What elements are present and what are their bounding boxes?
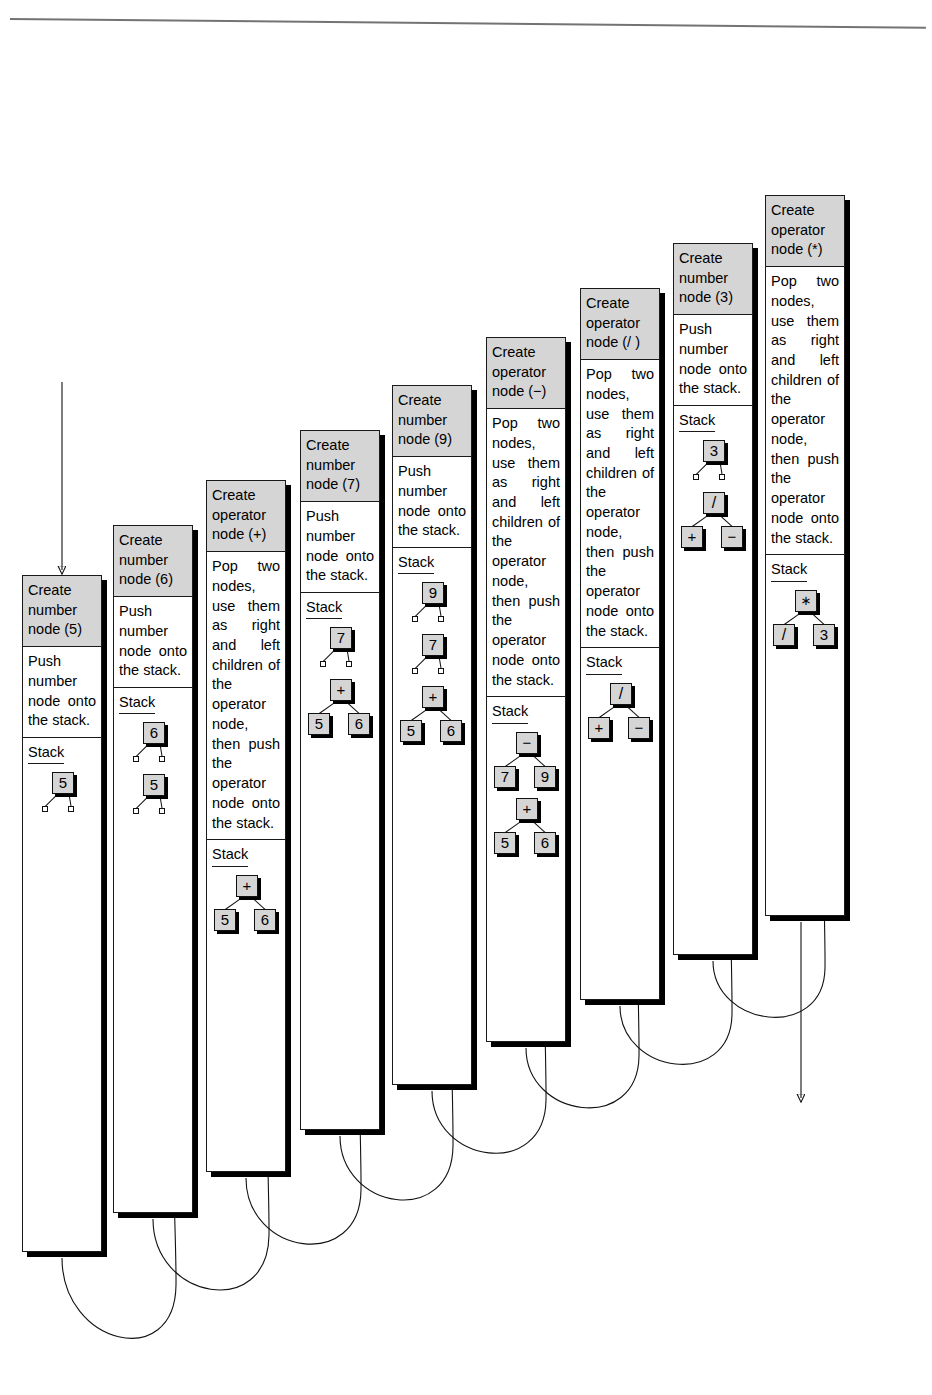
tree-node-left: 5 [494, 832, 516, 854]
stack-section: Stack756+ [301, 593, 379, 753]
stack-label: Stack [306, 599, 342, 619]
step-card-header: Create number node (3) [674, 244, 752, 315]
step-card-body: Pop two nodes, use them as right and lef… [581, 360, 659, 648]
tree-node-right: − [721, 526, 743, 548]
tree-node-root: + [422, 686, 444, 708]
stack-tree: /3∗ [771, 590, 841, 646]
stack-label: Stack [586, 654, 622, 674]
tree-null-child-right [159, 808, 165, 814]
stack-section: Stack79−56+ [487, 697, 565, 871]
stack-tree: 5 [119, 774, 189, 816]
tree-null-child-left [133, 756, 139, 762]
step-card[interactable]: Create number node (6)Push number node o… [113, 525, 193, 1213]
step-card[interactable]: Create operator node (/ )Pop two nodes, … [580, 288, 660, 1000]
stack-section: Stack9756+ [393, 548, 471, 760]
tree-node-root: + [330, 679, 352, 701]
stack-label: Stack [679, 412, 715, 432]
stack-section: Stack+−/ [581, 648, 659, 756]
tree-node-right: 6 [440, 720, 462, 742]
tree-node-root: 5 [143, 774, 165, 796]
step-card[interactable]: Create number node (9)Push number node o… [392, 385, 472, 1085]
tree-node-root: 5 [52, 772, 74, 794]
stack-tree: 79− [492, 732, 562, 788]
step-card-body: Push number node onto the stack. [674, 315, 752, 406]
stack-trees: 5 [28, 772, 97, 814]
tree-null-child-left [42, 806, 48, 812]
stack-trees: 56+ [212, 875, 281, 931]
figure-canvas: Create number node (5)Push number node o… [0, 0, 932, 1395]
step-card[interactable]: Create operator node (−)Pop two nodes, u… [486, 337, 566, 1042]
stack-trees: +−/ [586, 683, 655, 739]
stack-tree: 9 [398, 582, 468, 624]
step-card[interactable]: Create number node (5)Push number node o… [22, 575, 102, 1252]
stack-section: Stack5 [23, 738, 101, 832]
step-card[interactable]: Create number node (3)Push number node o… [673, 243, 753, 955]
tree-node-left: 5 [308, 713, 330, 735]
tree-node-root: 3 [703, 440, 725, 462]
step-card-header: Create operator node (/ ) [581, 289, 659, 360]
stack-tree: 6 [119, 722, 189, 764]
tree-node-right: 6 [254, 909, 276, 931]
tree-edge [159, 745, 162, 757]
stack-label: Stack [771, 561, 807, 581]
tree-edge [346, 650, 349, 662]
tree-node-root: 6 [143, 722, 165, 744]
stack-trees: 79−56+ [492, 732, 561, 854]
step-card[interactable]: Create operator node (*)Pop two nodes, u… [765, 195, 845, 916]
stack-label: Stack [119, 694, 155, 714]
tree-null-child-left [320, 661, 326, 667]
stack-tree: 56+ [398, 686, 468, 742]
tree-edge [438, 657, 441, 669]
step-card-body: Push number node onto the stack. [393, 457, 471, 548]
step-card-header: Create number node (9) [393, 386, 471, 457]
step-card-body: Pop two nodes, use them as right and lef… [766, 267, 844, 555]
tree-null-child-right [346, 661, 352, 667]
tree-node-left: 5 [400, 720, 422, 742]
stack-tree: 5 [28, 772, 98, 814]
tree-edge [159, 797, 162, 809]
tree-node-left: + [588, 717, 610, 739]
tree-null-child-right [719, 474, 725, 480]
tree-edge [68, 795, 71, 807]
stack-tree: 7 [306, 627, 376, 669]
tree-node-root: / [610, 683, 632, 705]
stack-trees: /3∗ [771, 590, 840, 646]
stack-trees: 3+−/ [679, 440, 748, 548]
stack-tree: 3 [679, 440, 749, 482]
stack-section: Stack3+−/ [674, 406, 752, 566]
tree-edge [438, 605, 441, 617]
step-card-header: Create number node (6) [114, 526, 192, 597]
tree-node-right: − [628, 717, 650, 739]
stack-label: Stack [398, 554, 434, 574]
step-card-header: Create number node (5) [23, 576, 101, 647]
step-card-body: Pop two nodes, use them as right and lef… [487, 409, 565, 697]
tree-node-root: + [236, 875, 258, 897]
step-card-body: Push number node onto the stack. [23, 647, 101, 738]
tree-node-left: / [773, 624, 795, 646]
tree-null-child-left [133, 808, 139, 814]
stack-tree: +−/ [586, 683, 656, 739]
step-card-header: Create operator node (*) [766, 196, 844, 267]
stack-label: Stack [212, 846, 248, 866]
step-card-header: Create number node (7) [301, 431, 379, 502]
tree-node-right: 9 [534, 766, 556, 788]
tree-node-right: 6 [348, 713, 370, 735]
stack-section: Stack/3∗ [766, 555, 844, 663]
stack-label: Stack [28, 744, 64, 764]
step-card-body: Push number node onto the stack. [301, 502, 379, 593]
tree-node-left: 7 [494, 766, 516, 788]
tree-node-right: 3 [813, 624, 835, 646]
tree-node-root: / [703, 492, 725, 514]
tree-edge [719, 463, 722, 475]
stack-trees: 9756+ [398, 582, 467, 742]
stack-tree: +−/ [679, 492, 749, 548]
step-card[interactable]: Create number node (7)Push number node o… [300, 430, 380, 1130]
tree-null-child-right [438, 668, 444, 674]
tree-node-root: 9 [422, 582, 444, 604]
tree-null-child-right [159, 756, 165, 762]
tree-node-root: 7 [330, 627, 352, 649]
stack-tree: 56+ [212, 875, 282, 931]
step-card[interactable]: Create operator node (+)Pop two nodes, u… [206, 480, 286, 1172]
tree-node-left: 5 [214, 909, 236, 931]
tree-node-root: − [516, 732, 538, 754]
